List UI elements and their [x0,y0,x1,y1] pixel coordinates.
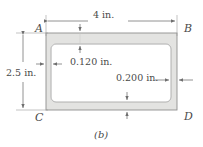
corner-label-d: D [184,111,193,122]
corner-label-c: C [35,112,43,123]
dimension-label-height: 2.5 in. [6,68,36,78]
dimension-label-thickness-thin: 0.120 in. [70,57,112,67]
corner-label-a: A [35,23,43,34]
figure-container: A B C D 4 in. 2.5 in. 0.120 in. 0.200 in… [0,0,203,147]
dimension-label-thickness-thick: 0.200 in. [116,73,158,83]
corner-label-b: B [184,23,192,34]
figure-caption: (b) [94,130,108,140]
dimension-label-width: 4 in. [93,10,114,20]
